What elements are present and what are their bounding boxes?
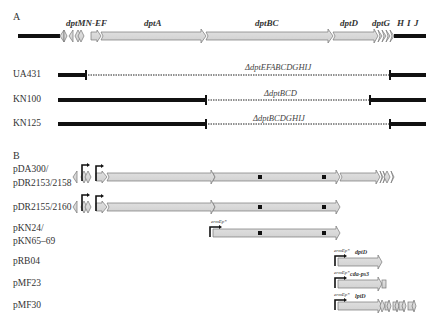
gene-label-h: H — [397, 18, 404, 28]
construct-label: pKN24/ — [13, 223, 44, 233]
promoter-label: ermEp* — [334, 248, 350, 253]
promoter-label: ermEp* — [334, 270, 350, 275]
construct-label: pRB04 — [13, 256, 40, 266]
gene-label: lptD — [355, 293, 366, 299]
strain-label: KN100 — [13, 94, 41, 104]
deletion-label: ΔdptBCDGHIJ — [253, 113, 305, 123]
construct-label: pDR2153/2158 — [13, 178, 72, 188]
construct-label: pDR2155/2160 — [13, 202, 72, 212]
strain-kn125-map — [58, 119, 426, 129]
strain-label: UA431 — [13, 69, 41, 79]
construct-label: pMF23 — [13, 278, 41, 288]
panel-b-label: B — [13, 150, 20, 161]
strain-ua431-map — [58, 70, 426, 80]
promoter-label: ermEp* — [211, 219, 227, 224]
construct-label: pKN65–69 — [13, 236, 55, 246]
gene-label: cda-ps3 — [350, 271, 369, 277]
gene-label-dptd: dptD — [340, 18, 358, 28]
construct-label: pMF30 — [13, 300, 41, 310]
gene-label-i: I — [407, 18, 411, 28]
gene-label-dptg: dptG — [372, 18, 390, 28]
strain-label: KN125 — [13, 118, 41, 128]
panel-a-label: A — [13, 11, 20, 22]
deletion-label: ΔdptEFABCDGHIJ — [245, 62, 311, 72]
gene-label-dpta: dptA — [144, 18, 162, 28]
gene-label: dptD — [355, 249, 367, 255]
promoter-label: ermEp* — [334, 292, 350, 297]
gene-label-j: J — [414, 18, 419, 28]
gene-label-dptmn-ef: dptMN-EF — [66, 18, 107, 28]
gene-label-dptbc: dptBC — [255, 18, 279, 28]
construct-label: pDA300/ — [13, 164, 48, 174]
deletion-label: ΔdptBCD — [264, 88, 297, 98]
strain-kn100-map — [58, 95, 426, 105]
gene-cluster-diagram — [0, 0, 437, 323]
